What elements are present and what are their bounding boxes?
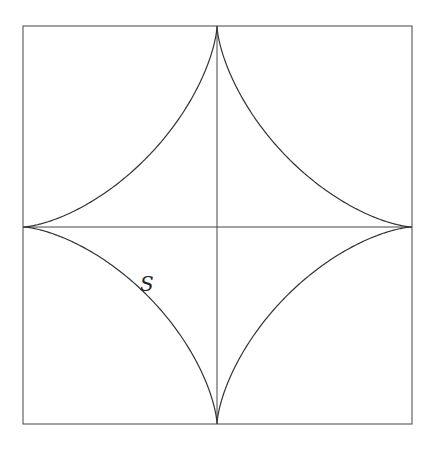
curve-label: S: [140, 272, 154, 296]
astroid-diagram: [0, 0, 434, 452]
